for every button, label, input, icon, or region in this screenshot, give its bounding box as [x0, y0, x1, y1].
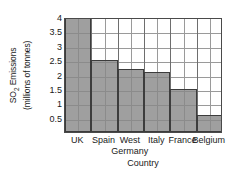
bar [118, 69, 144, 132]
y-axis-title-line2: (millions of tonnes) [23, 40, 34, 109]
x-axis-tick-label-line: Belgium [193, 135, 226, 145]
y-axis-tick-label: 1 [38, 100, 62, 109]
bar [144, 72, 170, 132]
y-axis-tick-label: 3 [38, 42, 62, 51]
x-axis-tick-label-line: UK [71, 135, 84, 145]
x-axis-tick-label-line: Germany [111, 146, 149, 157]
bar [170, 89, 197, 132]
x-axis-title: Country [64, 158, 222, 169]
y-axis-title-line1: SO2 Emissions [9, 47, 19, 103]
y-axis-tick-label: 1.5 [38, 85, 62, 94]
y-axis-tick-label: 2.5 [38, 57, 62, 66]
x-axis-tick-label-line: Italy [148, 135, 165, 145]
bar [65, 18, 91, 132]
x-axis-tick-label: Belgium [190, 135, 228, 146]
y-axis-tick-labels: 0.511.522.533.54 [38, 0, 62, 183]
y-axis-tick-label: 4 [38, 14, 62, 23]
y-axis-tick-label: 0.5 [38, 114, 62, 123]
y-axis-title: SO2 Emissions (millions of tonnes) [10, 14, 32, 136]
bar [91, 60, 118, 132]
bar [197, 115, 222, 132]
so2-emissions-bar-chart: SO2 Emissions (millions of tonnes) 0.511… [0, 0, 237, 183]
y-axis-tick-label: 3.5 [38, 28, 62, 37]
y-axis-tick-label: 2 [38, 71, 62, 80]
plot-area [64, 18, 222, 133]
